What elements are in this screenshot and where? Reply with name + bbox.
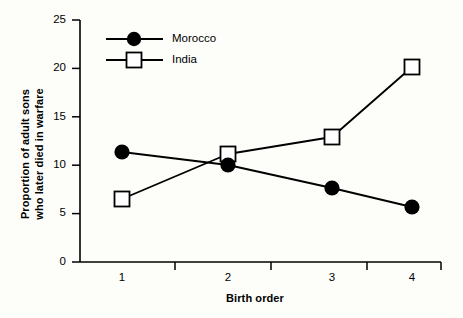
series-line-morocco xyxy=(122,152,412,207)
chart-figure: Proportion of adult sons who later died … xyxy=(0,0,463,318)
y-tick-label-0: 0 xyxy=(40,255,66,267)
series-markers-india xyxy=(115,60,420,207)
y-tick-label-10: 10 xyxy=(40,158,66,170)
legend-marker-morocco xyxy=(106,32,163,46)
y-tick-label-20: 20 xyxy=(40,61,66,73)
legend-marker-india xyxy=(106,53,163,68)
series-markers-morocco xyxy=(114,144,419,214)
y-tick-label-5: 5 xyxy=(40,206,66,218)
legend-label-morocco: Morocco xyxy=(172,32,216,44)
y-tick-marks xyxy=(72,20,80,262)
x-tick-label-2: 2 xyxy=(217,271,239,283)
x-tick-marks xyxy=(175,262,441,270)
x-tick-label-1: 1 xyxy=(111,271,133,283)
y-tick-label-25: 25 xyxy=(40,13,66,25)
y-axis-title: Proportion of adult sons who later died … xyxy=(18,54,46,254)
y-axis-title-line1: Proportion of adult sons xyxy=(18,54,32,254)
y-tick-label-15: 15 xyxy=(40,110,66,122)
x-axis-title: Birth order xyxy=(150,292,360,304)
legend-label-india: India xyxy=(172,53,197,65)
series-line-india xyxy=(122,67,412,199)
y-axis-title-line2: who later died in warfare xyxy=(32,54,46,254)
x-tick-label-3: 3 xyxy=(321,271,343,283)
x-tick-label-4: 4 xyxy=(401,271,423,283)
